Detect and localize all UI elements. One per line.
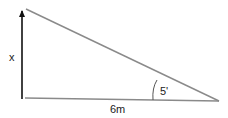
hypotenuse-line [26,9,219,101]
base-label: 6m [110,104,125,115]
height-label: x [9,52,15,63]
angle-arc [153,80,157,100]
triangle-diagram [0,0,228,118]
angle-label: 5' [160,86,168,97]
base-line [25,98,219,101]
